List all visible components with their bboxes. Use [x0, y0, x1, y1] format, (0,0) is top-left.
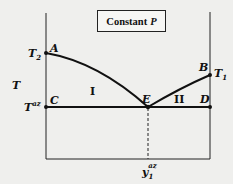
point-A-marker: [44, 51, 48, 55]
curve-A-E: [46, 53, 148, 107]
y-axis-label: T: [12, 80, 20, 91]
point-D-label: D: [200, 94, 210, 105]
azeotrope-composition-label: y1az: [142, 165, 162, 180]
title-var: P: [150, 16, 156, 27]
point-C-label: C: [50, 95, 59, 106]
title-box: ConstantP: [97, 10, 166, 32]
point-B-marker: [208, 73, 212, 77]
region-I-label: I: [90, 86, 95, 97]
point-A-label: A: [50, 43, 59, 54]
point-E-label: E: [142, 94, 150, 105]
taz-label: Taz: [24, 100, 41, 113]
point-B-label: B: [199, 62, 208, 73]
title-text: Constant: [106, 16, 147, 27]
point-C-marker: [44, 105, 48, 109]
t2-label: T2: [28, 48, 41, 61]
t1-label: T1: [214, 68, 227, 81]
region-II-label: II: [174, 94, 184, 105]
